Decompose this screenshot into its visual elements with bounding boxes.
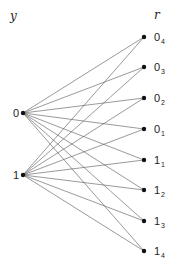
edge-0-1_2: [23, 113, 144, 190]
edge-0-1_3: [23, 113, 144, 221]
edge-0-0_4: [23, 37, 144, 113]
left-node-label: 0: [13, 107, 19, 119]
nodes: 010403020111121314: [13, 31, 165, 259]
left-axis-label: y: [9, 9, 17, 23]
right-node-subscript: 2: [161, 99, 165, 106]
right-node-0_3: [142, 65, 146, 69]
left-node-0: [21, 111, 25, 115]
right-node-0_4: [142, 35, 146, 39]
right-node-subscript: 3: [161, 222, 165, 229]
edge-1-0_2: [23, 98, 144, 175]
right-node-label: 0: [154, 123, 160, 135]
right-node-label: 1: [154, 245, 160, 257]
right-node-0_2: [142, 96, 146, 100]
right-node-1_4: [142, 249, 146, 253]
right-node-1_2: [142, 188, 146, 192]
right-node-label: 0: [154, 61, 160, 73]
right-node-label: 0: [154, 92, 160, 104]
edge-1-0_1: [23, 129, 144, 175]
edge-1-1_2: [23, 175, 144, 190]
right-node-subscript: 1: [161, 130, 165, 137]
right-node-label: 1: [154, 154, 160, 166]
edge-0-0_2: [23, 98, 144, 113]
right-node-0_1: [142, 127, 146, 131]
right-node-label: 1: [154, 215, 160, 227]
right-node-1_3: [142, 219, 146, 223]
right-node-subscript: 1: [161, 161, 165, 168]
right-node-subscript: 2: [161, 191, 165, 198]
edge-1-0_3: [23, 67, 144, 175]
edges: [23, 37, 144, 251]
right-node-subscript: 3: [161, 68, 165, 75]
edge-1-1_1: [23, 160, 144, 175]
right-node-subscript: 4: [161, 252, 165, 259]
right-node-subscript: 4: [161, 38, 165, 45]
right-node-label: 1: [154, 184, 160, 196]
left-node-label: 1: [13, 169, 19, 181]
right-axis-label: r: [154, 8, 161, 22]
left-node-1: [21, 173, 25, 177]
right-node-1_1: [142, 158, 146, 162]
bipartite-diagram: y r 010403020111121314: [0, 0, 174, 275]
right-node-label: 0: [154, 31, 160, 43]
edge-1-1_4: [23, 175, 144, 251]
